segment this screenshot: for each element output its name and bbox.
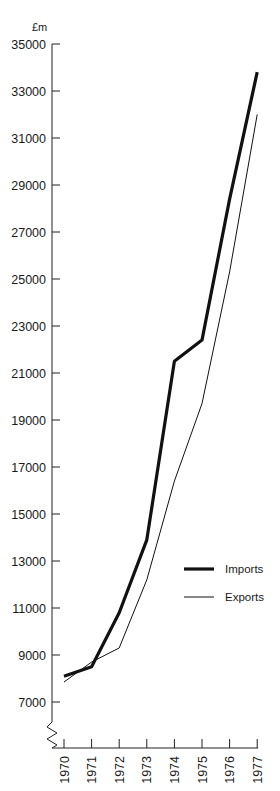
x-tick-label: 1974 bbox=[168, 756, 182, 784]
legend: Imports Exports bbox=[184, 563, 264, 603]
y-tick-label: 13000 bbox=[11, 555, 46, 569]
y-tick-label: 31000 bbox=[11, 132, 46, 146]
y-tick-label: 29000 bbox=[11, 179, 46, 193]
x-axis: 19701971197219731974197519761977 bbox=[52, 739, 265, 784]
y-tick-label: 35000 bbox=[11, 38, 46, 52]
y-tick-label: 9000 bbox=[18, 649, 46, 663]
x-tick-label: 1970 bbox=[58, 756, 72, 784]
y-axis: 7000900011000130001500017000190002100023… bbox=[11, 38, 60, 749]
y-tick-label: 15000 bbox=[11, 508, 46, 522]
legend-exports-label: Exports bbox=[225, 591, 264, 603]
x-tick-label: 1977 bbox=[251, 756, 265, 784]
legend-imports-label: Imports bbox=[225, 563, 264, 575]
y-tick-label: 23000 bbox=[11, 320, 46, 334]
y-tick-label: 21000 bbox=[11, 367, 46, 381]
axis-break-icon bbox=[47, 722, 57, 748]
x-tick-label: 1972 bbox=[113, 756, 127, 784]
line-chart: £m 7000900011000130001500017000190002100… bbox=[0, 0, 280, 791]
x-tick-label: 1975 bbox=[196, 756, 210, 784]
x-tick-label: 1976 bbox=[223, 756, 237, 784]
y-tick-label: 7000 bbox=[18, 696, 46, 710]
y-tick-label: 27000 bbox=[11, 226, 46, 240]
x-tick-label: 1971 bbox=[85, 756, 99, 784]
y-tick-label: 19000 bbox=[11, 414, 46, 428]
y-axis-unit-label: £m bbox=[32, 21, 47, 33]
y-tick-label: 17000 bbox=[11, 461, 46, 475]
y-tick-label: 33000 bbox=[11, 85, 46, 99]
x-tick-label: 1973 bbox=[140, 756, 154, 784]
series-imports-line bbox=[64, 72, 257, 676]
y-tick-label: 25000 bbox=[11, 273, 46, 287]
y-tick-label: 11000 bbox=[12, 602, 46, 616]
